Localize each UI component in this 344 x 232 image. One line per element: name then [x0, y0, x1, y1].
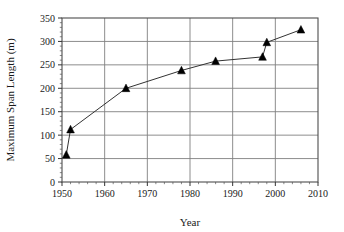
y-tick-label: 300: [40, 36, 55, 47]
chart-figure: 1950196019701980199020002010 05010015020…: [0, 0, 344, 232]
y-tick-label: 0: [50, 177, 55, 188]
y-tick-label: 250: [40, 59, 55, 70]
x-tick-label: 1960: [95, 188, 115, 199]
x-tick-label: 2010: [308, 188, 328, 199]
y-tick-label: 200: [40, 83, 55, 94]
y-tick-label: 50: [45, 153, 55, 164]
y-axis-title: Maximum Span Length (m): [4, 38, 17, 161]
y-tick-label: 150: [40, 106, 55, 117]
x-tick-label: 1950: [52, 188, 72, 199]
x-tick-label: 1980: [180, 188, 200, 199]
x-tick-label: 2000: [265, 188, 285, 199]
x-tick-label: 1970: [137, 188, 157, 199]
y-tick-label: 100: [40, 130, 55, 141]
span-length-line-chart: 1950196019701980199020002010 05010015020…: [0, 0, 344, 232]
x-axis-title: Year: [180, 216, 201, 228]
y-tick-label: 350: [40, 13, 55, 24]
x-tick-label: 1990: [223, 188, 243, 199]
